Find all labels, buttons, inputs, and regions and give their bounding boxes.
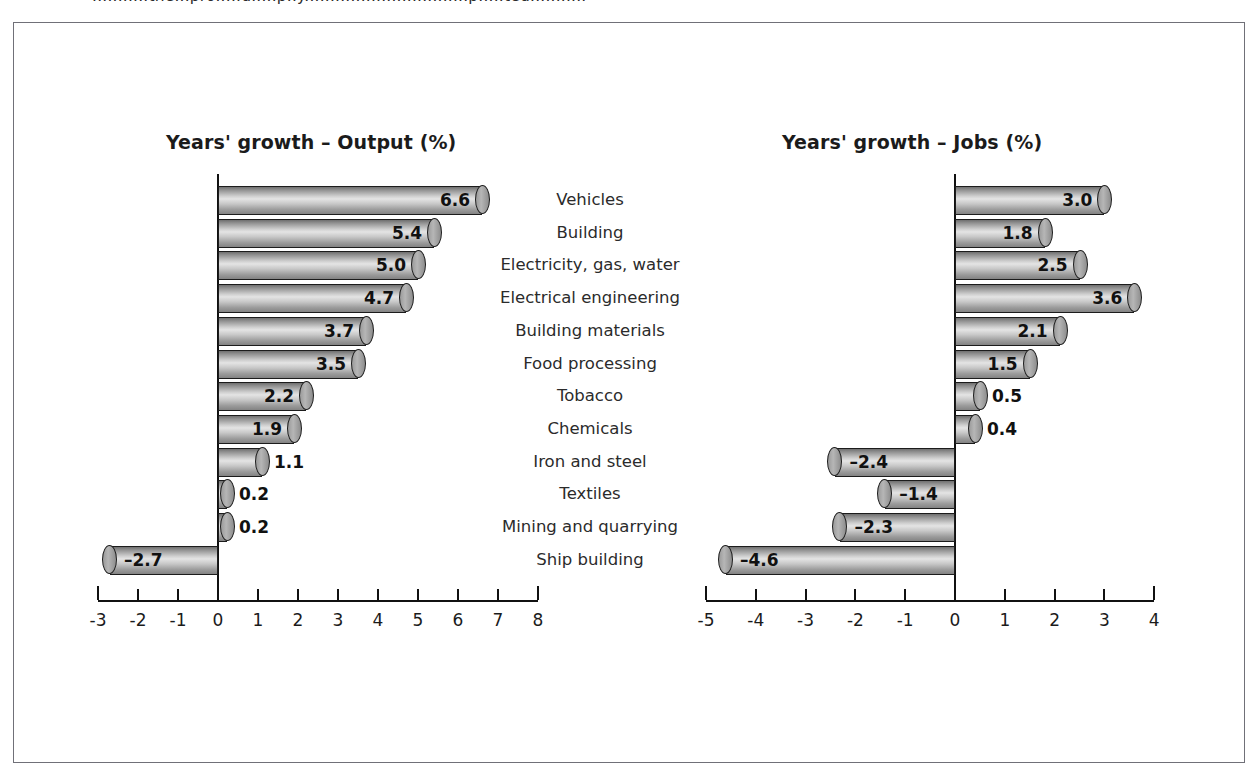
bar-end-cap [351, 349, 366, 378]
x-tick-output-6 [337, 589, 339, 600]
x-tick-label-jobs-6: 1 [988, 610, 1022, 630]
x-tick-output-7 [377, 589, 379, 600]
bar-end-cap [411, 250, 426, 279]
bar-value-jobs-3: 3.6 [1092, 284, 1122, 313]
bar-value-output-11: –2.7 [124, 546, 163, 575]
bar-end-cap [1053, 316, 1068, 345]
x-tick-label-output-7: 4 [361, 610, 395, 630]
bar-end-cap [220, 479, 235, 508]
bar-value-jobs-7: 0.4 [987, 415, 1017, 444]
x-tick-label-output-11: 8 [521, 610, 555, 630]
x-tick-output-1 [137, 589, 139, 600]
bar-end-cap [1023, 349, 1038, 378]
bar-value-jobs-0: 3.0 [1062, 186, 1092, 215]
bar-value-jobs-6: 0.5 [992, 382, 1022, 411]
bar-jobs-9[interactable]: –1.4 [885, 480, 955, 509]
category-label-8: Iron and steel [533, 452, 646, 471]
bar-jobs-6[interactable]: 0.5 [955, 382, 980, 411]
bar-output-9[interactable]: 0.2 [218, 480, 227, 509]
x-tick-output-2 [177, 589, 179, 600]
x-tick-jobs-9 [1153, 586, 1155, 600]
bar-jobs-8[interactable]: –2.4 [835, 448, 955, 477]
category-label-2: Electricity, gas, water [500, 255, 679, 274]
x-tick-label-jobs-9: 4 [1137, 610, 1171, 630]
bar-value-output-6: 2.2 [264, 382, 294, 411]
x-tick-label-jobs-2: -3 [789, 610, 823, 630]
x-tick-label-jobs-4: -1 [888, 610, 922, 630]
bar-end-cap [968, 414, 983, 443]
bar-output-1[interactable]: 5.4 [218, 219, 434, 248]
x-tick-label-output-3: 0 [201, 610, 235, 630]
bar-value-jobs-8: –2.4 [849, 448, 888, 477]
bar-output-6[interactable]: 2.2 [218, 382, 306, 411]
x-tick-label-jobs-0: -5 [689, 610, 723, 630]
bar-value-output-0: 6.6 [440, 186, 470, 215]
x-tick-jobs-3 [854, 589, 856, 600]
x-tick-label-jobs-3: -2 [838, 610, 872, 630]
category-label-4: Building materials [515, 321, 665, 340]
chart-title-output: Years' growth – Output (%) [166, 131, 456, 153]
bar-value-output-8: 1.1 [274, 448, 304, 477]
bar-output-7[interactable]: 1.9 [218, 415, 294, 444]
bar-jobs-2[interactable]: 2.5 [955, 251, 1080, 280]
x-tick-jobs-1 [755, 589, 757, 600]
bar-value-jobs-10: –2.3 [854, 513, 893, 542]
x-tick-jobs-2 [805, 589, 807, 600]
x-tick-output-8 [417, 589, 419, 600]
x-tick-label-output-5: 2 [281, 610, 315, 630]
bar-end-cap [102, 545, 117, 574]
x-tick-jobs-4 [904, 589, 906, 600]
x-tick-label-output-2: -1 [161, 610, 195, 630]
bar-jobs-10[interactable]: –2.3 [840, 513, 955, 542]
category-label-3: Electrical engineering [500, 288, 680, 307]
x-tick-output-11 [537, 586, 539, 600]
plot-area: Years' growth – Output (%) Years' growth… [0, 0, 1259, 765]
bar-output-4[interactable]: 3.7 [218, 317, 366, 346]
x-tick-label-jobs-5: 0 [938, 610, 972, 630]
bar-end-cap [1038, 218, 1053, 247]
bar-end-cap [255, 447, 270, 476]
bar-jobs-4[interactable]: 2.1 [955, 317, 1060, 346]
x-tick-label-jobs-1: -4 [739, 610, 773, 630]
bar-jobs-0[interactable]: 3.0 [955, 186, 1104, 215]
bar-value-jobs-11: –4.6 [740, 546, 779, 575]
bar-value-output-4: 3.7 [324, 317, 354, 346]
bar-jobs-3[interactable]: 3.6 [955, 284, 1134, 313]
x-tick-jobs-0 [705, 586, 707, 600]
category-label-11: Ship building [536, 550, 643, 569]
bar-end-cap [427, 218, 442, 247]
bar-value-jobs-1: 1.8 [1003, 219, 1033, 248]
x-tick-jobs-6 [1004, 589, 1006, 600]
category-label-7: Chemicals [547, 419, 632, 438]
bar-end-cap [1097, 185, 1112, 214]
category-label-1: Building [557, 223, 624, 242]
category-label-6: Tobacco [557, 386, 623, 405]
bar-output-11[interactable]: –2.7 [110, 546, 218, 575]
bar-output-10[interactable]: 0.2 [218, 513, 227, 542]
x-tick-label-output-6: 3 [321, 610, 355, 630]
x-tick-label-output-1: -2 [121, 610, 155, 630]
x-axis-line-jobs [706, 600, 1154, 602]
x-tick-label-output-10: 7 [481, 610, 515, 630]
bar-end-cap [299, 381, 314, 410]
bar-end-cap [718, 545, 733, 574]
x-axis-line-output [98, 600, 538, 602]
x-tick-output-5 [297, 589, 299, 600]
bar-output-3[interactable]: 4.7 [218, 284, 406, 313]
bar-value-output-5: 3.5 [316, 350, 346, 379]
bar-output-5[interactable]: 3.5 [218, 350, 358, 379]
x-tick-jobs-7 [1054, 589, 1056, 600]
bar-end-cap [1127, 283, 1142, 312]
bar-jobs-1[interactable]: 1.8 [955, 219, 1045, 248]
bar-jobs-7[interactable]: 0.4 [955, 415, 975, 444]
bar-jobs-5[interactable]: 1.5 [955, 350, 1030, 379]
category-label-5: Food processing [523, 354, 657, 373]
bar-value-output-1: 5.4 [392, 219, 422, 248]
bar-end-cap [287, 414, 302, 443]
bar-jobs-11[interactable]: –4.6 [726, 546, 955, 575]
bar-output-8[interactable]: 1.1 [218, 448, 262, 477]
x-tick-output-9 [457, 589, 459, 600]
bar-output-2[interactable]: 5.0 [218, 251, 418, 280]
bar-output-0[interactable]: 6.6 [218, 186, 482, 215]
x-tick-label-output-8: 5 [401, 610, 435, 630]
